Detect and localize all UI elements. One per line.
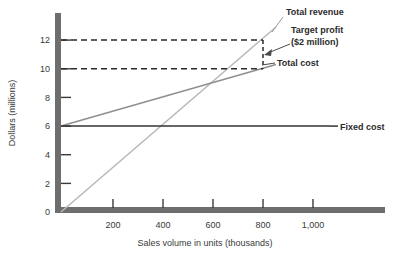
x-tick-label-800: 800 <box>255 220 270 230</box>
break-even-chart: 12 10 8 6 4 2 0 200 400 600 800 1,000 Sa… <box>0 0 401 259</box>
y-tick-label-10: 10 <box>40 64 50 74</box>
annotation-target-profit-amount: ($2 million) <box>291 37 339 47</box>
annotation-total-revenue: Total revenue <box>286 7 344 17</box>
x-axis-title: Sales volume in units (thousands) <box>137 238 272 248</box>
x-tick-label-600: 600 <box>205 220 220 230</box>
x-axis-spine <box>55 207 385 213</box>
y-axis-title: Dollars (millions) <box>7 80 17 147</box>
annotation-total-cost: Total cost <box>277 58 319 68</box>
x-tick-label-200: 200 <box>105 220 120 230</box>
annotation-target-profit: Target profit <box>291 25 343 35</box>
y-tick-label-8: 8 <box>45 93 50 103</box>
y-tick-label-2: 2 <box>45 179 50 189</box>
y-axis-spine <box>55 13 61 213</box>
y-tick-label-0: 0 <box>45 207 50 217</box>
y-tick-label-4: 4 <box>45 150 50 160</box>
y-tick-label-12: 12 <box>40 35 50 45</box>
x-tick-label-1000: 1,000 <box>302 220 325 230</box>
chart-canvas: 12 10 8 6 4 2 0 200 400 600 800 1,000 Sa… <box>0 0 401 259</box>
y-tick-label-6: 6 <box>45 121 50 131</box>
annotation-fixed-cost: Fixed cost <box>340 122 385 132</box>
x-tick-label-400: 400 <box>155 220 170 230</box>
